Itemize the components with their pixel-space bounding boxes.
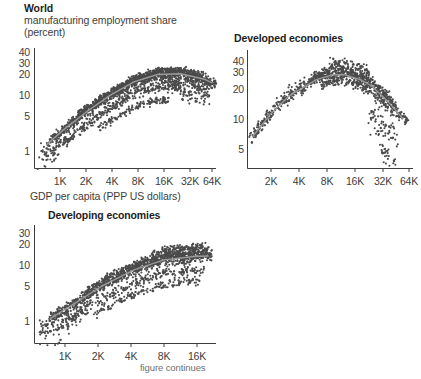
figure-root: World manufacturing employment share (pe…: [0, 0, 421, 379]
panel-developing-xtick-2k: 2K: [86, 350, 110, 362]
panel-world-subtitle-line2: (percent): [24, 26, 65, 39]
panel-world-scatter-svg: [34, 48, 216, 170]
panel-developing-xtick-16k: 16K: [183, 350, 211, 362]
panel-developed-xtick-32k: 32K: [369, 175, 397, 187]
panel-world-ytick-20: 20: [2, 68, 30, 80]
panel-developed-ytick-30: 30: [218, 66, 244, 78]
panel-developing-ytick-1: 1: [4, 315, 30, 327]
panel-world-plot: [34, 48, 216, 170]
panel-world-title: World: [24, 2, 53, 14]
figure-continues-note: figure continues: [140, 362, 205, 373]
panel-developing-xtick-1k: 1K: [53, 350, 77, 362]
panel-developed: Developed economies 40 30 20 10 5: [222, 0, 421, 205]
panel-developed-ytick-20: 20: [218, 83, 244, 95]
panel-developing-ytick-20: 20: [4, 238, 30, 250]
panel-world-xtick-16k: 16K: [150, 175, 178, 187]
panel-developing: Developing economies 30 20 10 5 1 1K: [0, 205, 260, 379]
panel-world-ytick-10: 10: [2, 89, 30, 101]
panel-world-subtitle-line1: manufacturing employment share: [24, 14, 177, 27]
panel-developed-xtick-2k: 2K: [259, 175, 283, 187]
panel-developing-xtick-4k: 4K: [119, 350, 143, 362]
panel-developed-ytick-10: 10: [218, 113, 244, 125]
panel-developed-ytick-5: 5: [218, 143, 244, 155]
panel-world-ytick-1: 1: [2, 145, 30, 157]
panel-developing-scatter-svg: [34, 225, 216, 345]
panel-developed-xtick-16k: 16K: [341, 175, 369, 187]
panel-world-points: [37, 66, 218, 170]
panel-developed-scatter-svg: [247, 50, 413, 170]
panel-developing-plot: [34, 225, 216, 345]
panel-developed-xtick-64k: 64K: [395, 175, 421, 187]
panel-world: World manufacturing employment share (pe…: [0, 0, 222, 205]
panel-world-axes: [35, 48, 217, 172]
panel-developing-ytick-5: 5: [4, 280, 30, 292]
panel-world-xtick-1k: 1K: [48, 175, 72, 187]
panel-developing-title: Developing economies: [48, 209, 160, 221]
panel-world-xtick-4k: 4K: [100, 175, 124, 187]
x-axis-title: GDP per capita (PPP US dollars): [30, 190, 181, 202]
panel-developed-plot: [247, 50, 413, 170]
panel-developing-xtick-8k: 8K: [152, 350, 176, 362]
panel-world-xtick-2k: 2K: [74, 175, 98, 187]
panel-developed-title: Developed economies: [234, 32, 343, 44]
panel-developed-xtick-4k: 4K: [287, 175, 311, 187]
panel-developing-ytick-10: 10: [4, 259, 30, 271]
panel-world-xtick-8k: 8K: [126, 175, 150, 187]
panel-world-ytick-5: 5: [2, 110, 30, 122]
panel-developed-xtick-8k: 8K: [315, 175, 339, 187]
